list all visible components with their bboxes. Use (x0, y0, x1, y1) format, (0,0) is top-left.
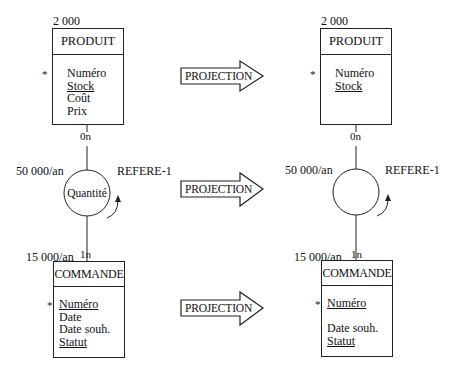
entity-produit-before[interactable]: PRODUIT Numéro Stock Coût Prix (52, 28, 124, 125)
attribute: Statut (327, 335, 378, 348)
attribute: Coût (67, 92, 106, 105)
relation-frequency: 50 000/an (285, 164, 333, 177)
entity-commande-after[interactable]: COMMANDE Numéro Date souh. Statut (321, 260, 393, 357)
entity-name: COMMANDE (54, 262, 124, 287)
relation-circle-after (333, 169, 379, 215)
rotation-arrow-icon (377, 199, 388, 216)
attribute: Date souh. (327, 322, 378, 335)
cardinality-produit: 0n (80, 130, 91, 143)
produit-volume: 2 000 (53, 15, 80, 28)
entity-commande-before[interactable]: COMMANDE Numéro Date Date souh. Statut (53, 261, 125, 358)
cardinality-commande: 1n (80, 248, 91, 261)
attribute-list: Numéro Stock Coût Prix (67, 67, 106, 117)
identifier-marker: * (310, 68, 316, 81)
projection-arrow-label: PROJECTION (185, 70, 252, 82)
identifier-marker: * (315, 298, 321, 311)
projection-arrow-label: PROJECTION (185, 183, 252, 195)
identifier-marker: * (42, 68, 48, 81)
relation-name: REFERE-1 (385, 164, 440, 177)
attribute-list: Numéro Date souh. Statut (327, 297, 378, 347)
entity-name: PRODUIT (321, 29, 391, 55)
attribute: Numéro (67, 67, 106, 80)
identifier-marker: * (47, 299, 53, 312)
attribute: Stock (335, 80, 374, 93)
relation-property: Quantité (64, 187, 110, 200)
projection-arrow-label: PROJECTION (185, 302, 252, 314)
entity-name: PRODUIT (53, 29, 123, 55)
attribute-list: Numéro Date Date souh. Statut (59, 298, 110, 348)
attribute-list: Numéro Stock (335, 67, 374, 92)
produit-volume: 2 000 (321, 15, 348, 28)
cardinality-produit: 0n (350, 130, 361, 143)
attribute: Numéro (335, 67, 374, 80)
attribute: Numéro (327, 297, 378, 310)
attribute: Prix (67, 105, 106, 118)
relation-name: REFERE-1 (117, 165, 172, 178)
entity-produit-after[interactable]: PRODUIT Numéro Stock (320, 28, 392, 125)
attribute: Numéro (59, 298, 110, 311)
attribute: Statut (59, 336, 110, 349)
entity-name: COMMANDE (322, 261, 392, 286)
attribute: Date souh. (59, 323, 110, 336)
rotation-arrow-icon (107, 200, 118, 218)
relation-frequency: 50 000/an (16, 165, 64, 178)
